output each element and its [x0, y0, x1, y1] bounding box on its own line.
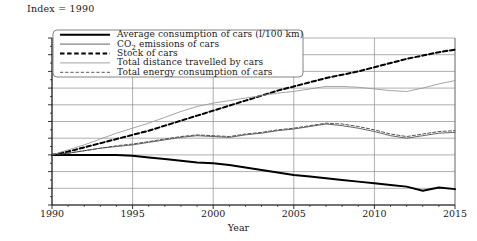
legend-item-label: Total energy consumption of cars: [117, 67, 273, 77]
legend-labels: Average consumption of cars (l/100 km)CO…: [0, 0, 477, 241]
